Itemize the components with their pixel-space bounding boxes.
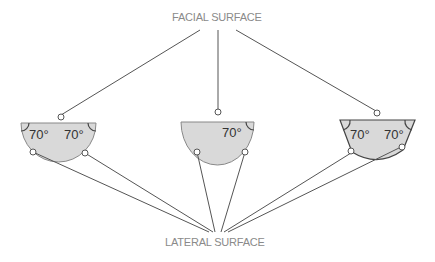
angle-label: 70° — [222, 125, 242, 140]
facial-lines — [61, 30, 376, 115]
angle-label: 70° — [29, 127, 49, 142]
angle-label: 70° — [384, 127, 404, 142]
diagram-canvas: 70° 70° 70° 70° 70° — [0, 0, 435, 262]
angle-label: 70° — [350, 127, 370, 142]
angle-label: 70° — [64, 127, 84, 142]
